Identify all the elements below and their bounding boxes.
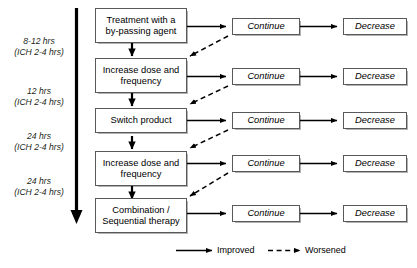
time-label-3-primary: 24 hrs [27,131,51,141]
continue-box-5[interactable]: Continue [232,205,300,222]
timeline-arrow [71,8,83,224]
improved-arrows-step-to-continue [187,27,226,214]
decrease-box-4[interactable]: Decrease [343,155,407,172]
step-box-2-line2: frequency [121,76,162,86]
decrease-box-3[interactable]: Decrease [343,112,407,129]
continue-box-2[interactable]: Continue [232,68,300,85]
step-box-1-line2: by-passing agent [106,26,177,36]
step-box-4-line2: frequency [121,169,162,179]
step-box-4-text: Increase dose and frequency [98,158,184,179]
step-box-2-line1: Increase dose and [103,65,180,75]
step-box-3[interactable]: Switch product [95,108,187,133]
time-label-3: 24 hrs (ICH 2-4 hrs) [6,131,72,153]
time-label-2-secondary: (ICH 2-4 hrs) [14,97,64,107]
time-label-2: 12 hrs (ICH 2-4 hrs) [6,86,72,108]
decrease-box-1[interactable]: Decrease [343,18,407,35]
decrease-box-2-label: Decrease [344,71,406,81]
time-label-4-secondary: (ICH 2-4 hrs) [14,187,64,197]
time-label-4-primary: 24 hrs [27,176,51,186]
decrease-box-5-label: Decrease [344,208,406,218]
continue-box-1[interactable]: Continue [232,18,300,35]
step-box-5-line2: Sequential therapy [102,216,180,226]
time-label-3-secondary: (ICH 2-4 hrs) [14,142,64,152]
decrease-box-5[interactable]: Decrease [343,205,407,222]
step-box-4-line1: Increase dose and [103,158,180,168]
time-label-2-primary: 12 hrs [27,86,51,96]
time-label-1: 8-12 hrs (ICH 2-4 hrs) [6,36,72,58]
improved-arrows-continue-to-decrease [300,27,337,214]
legend-worsened-label: Worsened [305,245,346,255]
time-label-1-secondary: (ICH 2-4 hrs) [14,47,64,57]
decrease-box-3-label: Decrease [344,115,406,125]
time-label-1-primary: 8-12 hrs [23,36,55,46]
worsened-arrows [190,36,228,196]
step-box-2[interactable]: Increase dose and frequency [95,58,187,93]
time-label-4: 24 hrs (ICH 2-4 hrs) [6,176,72,198]
flowchart-figure: 8-12 hrs (ICH 2-4 hrs) 12 hrs (ICH 2-4 h… [0,0,417,268]
step-box-3-line1: Switch product [111,115,172,125]
continue-box-3[interactable]: Continue [232,112,300,129]
step-box-3-text: Switch product [98,115,184,125]
step-box-2-text: Increase dose and frequency [98,65,184,86]
continue-box-2-label: Continue [233,71,299,81]
legend-improved-label: Improved [217,245,255,255]
continue-box-5-label: Continue [233,208,299,218]
step-box-5-line1: Combination / [112,205,169,215]
decrease-box-4-label: Decrease [344,158,406,168]
continue-box-1-label: Continue [233,21,299,31]
step-box-5-text: Combination / Sequential therapy [98,205,184,226]
step-box-4[interactable]: Increase dose and frequency [95,151,187,186]
step-box-1-line1: Treatment with a [107,15,176,25]
continue-box-4-label: Continue [233,158,299,168]
continue-box-4[interactable]: Continue [232,155,300,172]
step-box-1[interactable]: Treatment with a by-passing agent [95,8,187,43]
decrease-box-2[interactable]: Decrease [343,68,407,85]
step-box-1-text: Treatment with a by-passing agent [98,15,184,36]
step-box-5[interactable]: Combination / Sequential therapy [95,198,187,233]
continue-box-3-label: Continue [233,115,299,125]
decrease-box-1-label: Decrease [344,21,406,31]
